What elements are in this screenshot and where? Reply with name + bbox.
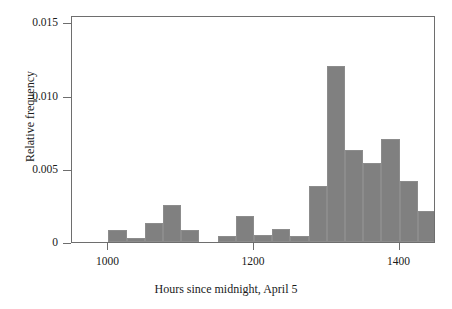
histogram-bar [108, 230, 126, 242]
x-axis-tick-label: 1200 [223, 255, 283, 267]
y-axis-tick [63, 170, 71, 171]
y-axis-tick-label: 0 [52, 237, 58, 249]
x-axis-tick-label: 1000 [77, 255, 137, 267]
histogram-bar [381, 139, 399, 242]
x-axis-tick [107, 243, 108, 250]
histogram-bar [127, 238, 145, 242]
histogram-bar [254, 235, 272, 242]
histogram-bar [309, 186, 327, 242]
x-axis-tick-label: 1400 [369, 255, 429, 267]
x-axis-title: Hours since midnight, April 5 [0, 283, 452, 296]
histogram-bar [272, 229, 290, 242]
histogram-bar [345, 150, 363, 242]
histogram-bar [218, 236, 236, 242]
x-axis-tick [399, 243, 400, 250]
histogram-bar [163, 205, 181, 242]
histogram-bar [290, 236, 308, 242]
y-axis-tick [63, 23, 71, 24]
plot-area [72, 17, 434, 242]
y-axis-tick [63, 97, 71, 98]
histogram-bar [236, 216, 254, 242]
histogram-figure: 00.0050.0100.015 100012001400 Hours sinc… [0, 0, 452, 309]
histogram-bar [145, 223, 163, 242]
histogram-bar [363, 163, 381, 242]
histogram-bar [181, 230, 199, 242]
histogram-bar [418, 211, 434, 242]
x-axis-tick [253, 243, 254, 250]
plot-frame [71, 16, 435, 243]
y-axis-tick [63, 243, 71, 244]
histogram-bar [327, 66, 345, 242]
histogram-bar [400, 181, 418, 243]
y-axis-title: Relative frequency [24, 27, 37, 207]
